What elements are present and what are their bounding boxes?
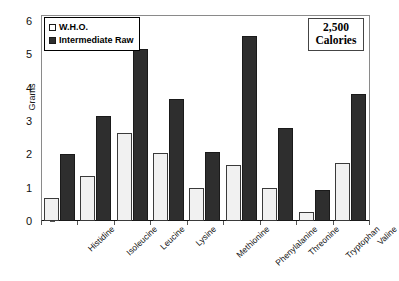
bar-group [41,21,77,221]
bar-who [44,198,59,221]
bar-intermediate-raw [133,49,148,221]
bar-who [335,163,350,221]
bar-who [299,212,314,221]
x-category-label: Methionine [234,224,271,260]
bar-group [333,21,369,221]
calorie-amount: 2,500 [309,21,363,34]
bar-who [117,133,132,221]
x-category-label: Lysine [193,224,218,248]
bar-intermediate-raw [60,154,75,221]
y-axis-tick-labels: 0123456 [14,21,32,221]
bar-group [150,21,186,221]
x-category-label: Histidine [86,224,117,254]
bar-who [153,153,168,221]
bar-intermediate-raw [351,94,366,221]
bar-intermediate-raw [169,99,184,221]
bar-intermediate-raw [278,128,293,221]
x-axis-category-labels: HistidineIsoleucineLeucineLysineMethioni… [41,224,381,281]
y-tick-label: 1 [14,182,32,193]
x-category-label: Tryptophan [344,224,382,260]
plot-area [41,21,369,221]
bar-who [262,188,277,221]
y-tick-label: 2 [14,149,32,160]
bar-group [223,21,259,221]
y-tick-label: 5 [14,49,32,60]
legend-label: W.H.O. [59,23,88,32]
bar-intermediate-raw [205,152,220,221]
calorie-unit: Calories [309,34,363,47]
y-tick-label: 4 [14,82,32,93]
legend-label: Intermediate Raw [59,36,134,45]
x-category-label: Isoleucine [124,224,159,257]
chart-legend: W.H.O.Intermediate Raw [44,17,140,51]
bar-group [260,21,296,221]
bar-intermediate-raw [315,190,330,221]
bar-group [296,21,332,221]
bar-who [226,165,241,221]
x-category-label: Leucine [158,224,187,252]
legend-item: Intermediate Raw [49,34,134,47]
y-tick-label: 6 [14,16,32,27]
bar-group [187,21,223,221]
calorie-annotation-box: 2,500 Calories [308,18,364,51]
filled-square-swatch [49,37,56,44]
bar-who [80,176,95,221]
y-tick-label: 3 [14,116,32,127]
open-square-swatch [49,24,56,31]
bar-group [77,21,113,221]
y-tick-label: 0 [14,216,32,227]
bar-intermediate-raw [96,116,111,221]
bar-group [114,21,150,221]
bar-who [189,188,204,221]
legend-item: W.H.O. [49,21,134,34]
bar-intermediate-raw [242,36,257,221]
